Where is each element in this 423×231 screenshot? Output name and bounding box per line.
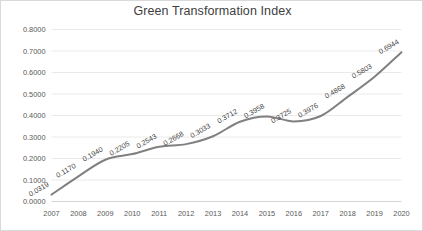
x-axis-tick-label: 2019: [366, 209, 382, 218]
x-axis-tick-label: 2014: [232, 209, 248, 218]
x-axis-tick-label: 2015: [259, 209, 275, 218]
x-axis-tick-label: 2017: [313, 209, 329, 218]
x-axis-tick-labels: 2007200820092010201120122013201420152016…: [43, 209, 409, 218]
data-point-label: 0.3712: [215, 107, 239, 126]
y-axis-tick-label: 0.7000: [23, 47, 46, 56]
series-line-green-transformation-index: [52, 52, 402, 194]
y-axis-tick-label: 0.5000: [23, 90, 46, 99]
x-axis-tick-label: 2011: [151, 209, 167, 218]
y-axis-tick-label: 0.6000: [23, 68, 46, 77]
y-axis-tick-labels: 0.00000.10000.20000.30000.40000.50000.60…: [23, 25, 46, 206]
x-axis-tick-label: 2012: [178, 209, 194, 218]
y-axis-tick-label: 0.3000: [23, 133, 46, 142]
data-point-label: 0.1170: [54, 161, 77, 180]
chart-plot-area: 0.00000.10000.20000.30000.40000.50000.60…: [1, 1, 423, 231]
data-series-line: [52, 52, 402, 194]
y-axis-tick-label: 0.0000: [23, 197, 46, 206]
y-axis-tick-label: 0.2000: [23, 154, 46, 163]
data-point-label: 0.6944: [377, 37, 401, 56]
data-point-label: 0.5803: [350, 62, 374, 81]
x-axis-tick-label: 2007: [43, 209, 59, 218]
data-point-label: 0.1940: [81, 145, 105, 164]
x-axis-tick-label: 2013: [205, 209, 221, 218]
x-axis-tick-label: 2008: [70, 209, 86, 218]
y-axis-tick-label: 0.4000: [23, 111, 46, 120]
data-point-label: 0.4868: [323, 82, 347, 101]
x-axis-tick-label: 2018: [339, 209, 355, 218]
x-axis-tick-label: 2020: [393, 209, 409, 218]
chart-container: Green Transformation Index 0.00000.10000…: [0, 0, 423, 231]
data-point-label: 0.3725: [269, 106, 293, 125]
x-axis-tick-label: 2010: [124, 209, 140, 218]
y-axis-tick-label: 0.8000: [23, 25, 46, 34]
x-axis-tick-label: 2009: [97, 209, 113, 218]
x-axis-tick-label: 2016: [286, 209, 302, 218]
